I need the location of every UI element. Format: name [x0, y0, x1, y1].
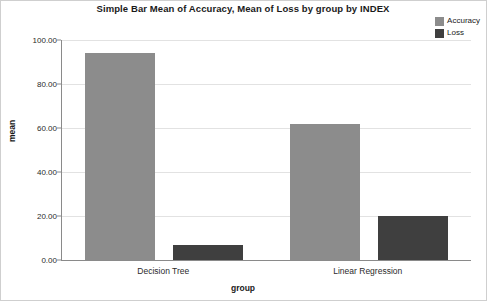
- y-axis-tick-label: 60.00: [9, 124, 57, 133]
- gridline: [62, 40, 471, 41]
- bar-accuracy-decision-tree[interactable]: [85, 53, 155, 260]
- x-axis-tick-label: Decision Tree: [137, 266, 189, 276]
- legend-item-accuracy: Accuracy: [435, 16, 480, 26]
- legend-swatch-accuracy: [435, 17, 444, 26]
- x-axis-tick-label: Linear Regression: [333, 266, 402, 276]
- y-axis-tick-label: 0.00: [9, 256, 57, 265]
- x-axis-title: group: [0, 283, 486, 293]
- y-axis-tick-label: 40.00: [9, 168, 57, 177]
- bar-accuracy-linear-regression[interactable]: [290, 124, 360, 260]
- y-axis-tick-labels: 0.0020.0040.0060.0080.00100.00: [5, 40, 57, 260]
- y-axis-tick-label: 20.00: [9, 212, 57, 221]
- plot-area: [61, 40, 471, 261]
- legend-label-accuracy: Accuracy: [447, 16, 480, 26]
- legend-swatch-loss: [435, 29, 444, 38]
- bar-loss-linear-regression[interactable]: [378, 216, 448, 260]
- bar-loss-decision-tree[interactable]: [173, 245, 243, 260]
- chart-legend: Accuracy Loss: [435, 16, 480, 38]
- legend-label-loss: Loss: [447, 28, 464, 38]
- legend-item-loss: Loss: [435, 28, 480, 38]
- y-axis-tick-label: 100.00: [9, 36, 57, 45]
- chart-title: Simple Bar Mean of Accuracy, Mean of Los…: [0, 3, 486, 14]
- y-axis-tick-label: 80.00: [9, 80, 57, 89]
